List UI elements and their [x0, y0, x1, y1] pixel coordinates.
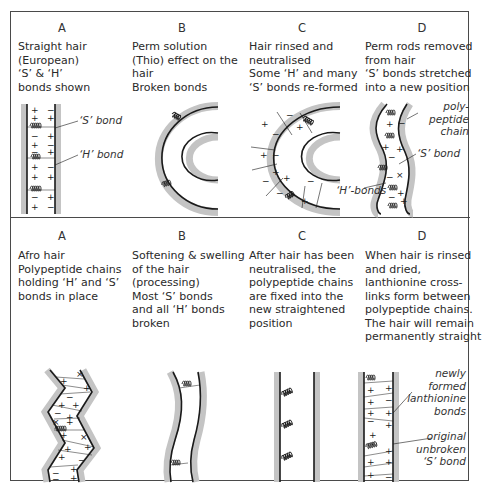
svg-text:+: +: [367, 470, 375, 480]
bottom-b-softened-wave: [167, 372, 204, 482]
top-b-perm-curl: [159, 106, 218, 212]
svg-text:+: +: [367, 457, 375, 467]
svg-text:−: −: [31, 192, 39, 202]
svg-text:−: −: [286, 110, 294, 120]
top-c-neutralised-curl: +− +− +− +− +− +−: [251, 106, 340, 212]
svg-text:+: +: [367, 397, 375, 407]
svg-text:−: −: [398, 118, 406, 128]
original-s-bond-label: original unbroken ‘S’ bond: [398, 430, 466, 468]
svg-text:−: −: [276, 188, 284, 198]
svg-text:+: +: [58, 452, 66, 462]
svg-text:+: +: [385, 446, 393, 456]
svg-text:−: −: [31, 147, 39, 157]
svg-text:+: +: [385, 420, 393, 430]
svg-text:×: ×: [52, 417, 60, 427]
svg-text:+: +: [47, 113, 55, 123]
svg-text:+: +: [47, 172, 55, 182]
svg-text:−: −: [47, 162, 55, 172]
polypeptide-chain-label: poly-peptide chain: [417, 100, 469, 138]
svg-text:−: −: [307, 176, 315, 186]
svg-text:+: +: [60, 376, 68, 386]
svg-text:+: +: [272, 167, 280, 177]
svg-text:×: ×: [80, 432, 88, 442]
svg-text:×: ×: [396, 170, 404, 180]
svg-text:−: −: [272, 129, 280, 139]
top-a-straight-hair: +− ++ −+ +− −+ +− ++ −+ +−: [21, 104, 78, 214]
svg-text:+: +: [301, 196, 309, 206]
svg-text:+: +: [47, 147, 55, 157]
bottom-a-afro-zigzag: +× +− ++ −+ ×+ +× ++ +− −+ −+: [45, 369, 97, 484]
svg-text:+: +: [296, 122, 304, 132]
svg-text:−: −: [388, 152, 396, 162]
svg-text:+: +: [283, 173, 291, 183]
svg-text:+: +: [261, 119, 269, 129]
svg-text:−: −: [52, 474, 60, 484]
lanthionine-bonds-label: newly formed lanthionine bonds: [398, 367, 466, 417]
svg-text:+: +: [260, 150, 268, 160]
s-bond-label-top-d: ‘S’ bond: [417, 147, 460, 160]
svg-text:+: +: [31, 162, 39, 172]
svg-text:+: +: [386, 119, 394, 129]
svg-text:+: +: [66, 417, 74, 427]
top-d-stretched-wave: +− ++ −× −+ −+: [364, 104, 418, 214]
svg-text:+: +: [31, 202, 39, 212]
svg-text:+: +: [31, 172, 39, 182]
svg-text:−: −: [272, 150, 280, 160]
svg-text:+: +: [70, 473, 78, 483]
svg-text:+: +: [369, 430, 377, 440]
svg-text:−: −: [47, 202, 55, 212]
svg-text:−: −: [78, 455, 86, 465]
bottom-c-straightened: [274, 372, 320, 482]
svg-text:−: −: [388, 192, 396, 202]
svg-text:+: +: [396, 144, 404, 154]
svg-text:+: +: [367, 385, 375, 395]
svg-text:×: ×: [76, 369, 84, 379]
svg-text:−: −: [367, 416, 375, 426]
svg-text:+: +: [84, 442, 92, 452]
svg-text:+: +: [382, 142, 390, 152]
svg-text:+: +: [385, 457, 393, 467]
svg-text:+: +: [47, 192, 55, 202]
svg-text:−: −: [262, 176, 270, 186]
svg-text:−: −: [385, 472, 393, 482]
svg-text:−: −: [385, 395, 393, 405]
svg-text:+: +: [31, 113, 39, 123]
svg-text:+: +: [72, 400, 80, 410]
svg-text:−: −: [386, 172, 394, 182]
svg-text:+: +: [385, 408, 393, 418]
s-bond-label-top-a: ‘S’ bond: [79, 114, 122, 127]
svg-text:+: +: [385, 383, 393, 393]
svg-text:+: +: [60, 430, 68, 440]
svg-text:+: +: [83, 383, 91, 393]
svg-text:+: +: [400, 196, 408, 206]
h-bond-label-top-a: ‘H’ bond: [79, 148, 123, 161]
h-bonds-label-top-d: ‘H’-bonds: [336, 184, 386, 197]
